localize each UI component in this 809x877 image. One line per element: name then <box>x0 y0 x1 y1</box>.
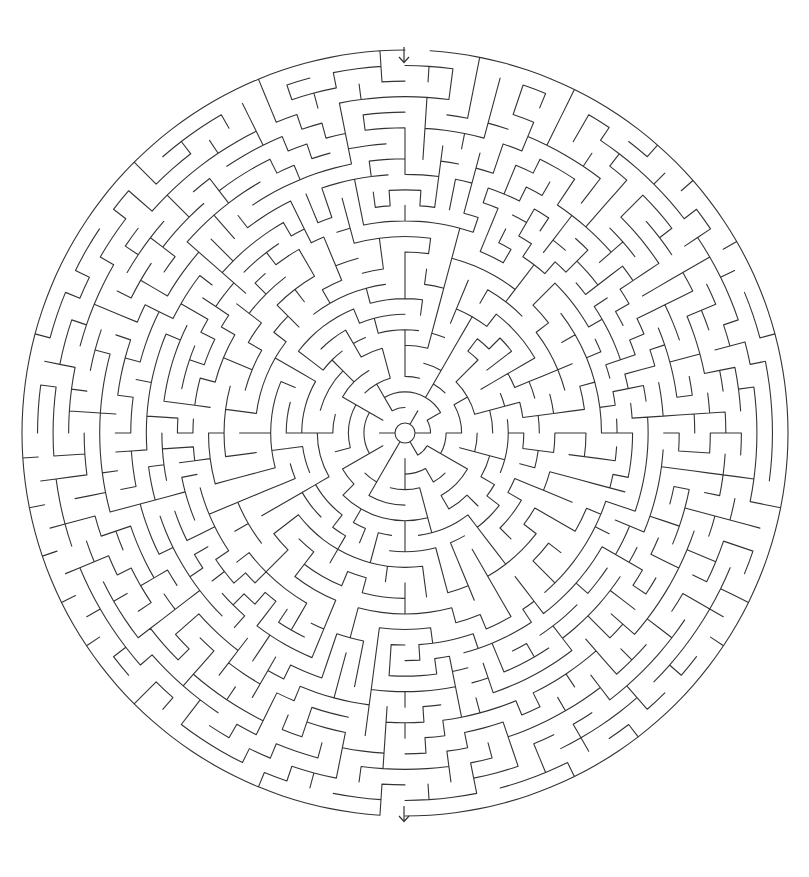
exit-down-arrow-icon <box>398 805 410 823</box>
maze-wall-paths <box>22 50 788 816</box>
entrance-down-arrow-icon <box>398 46 410 64</box>
maze-walls <box>22 50 788 816</box>
circular-maze <box>0 0 809 877</box>
